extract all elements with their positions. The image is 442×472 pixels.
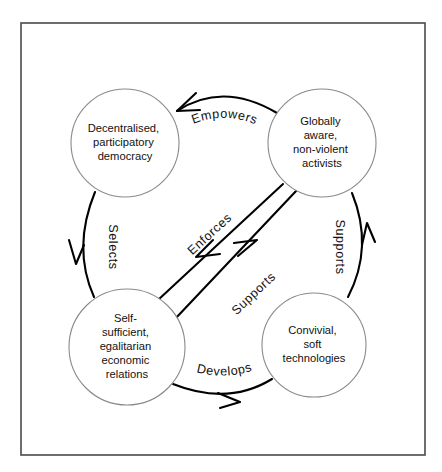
node-decentralised-democracy-label: Decentralised, participatory democracy	[88, 122, 163, 162]
diagram-canvas: Empowers Selects Supports Develops	[0, 0, 442, 472]
node-convivial-technologies[interactable]: Convivial, soft technologies	[262, 293, 366, 397]
edge-label-supports-right: Supports	[333, 219, 347, 274]
edge-label-selects: Selects	[106, 224, 120, 270]
cycle-diagram: Empowers Selects Supports Develops	[0, 0, 442, 472]
node-self-sufficient-economy[interactable]: Self- sufficient, egalitarian economic r…	[69, 289, 185, 405]
node-decentralised-democracy[interactable]: Decentralised, participatory democracy	[71, 89, 179, 197]
node-globally-aware-activists[interactable]: Globally aware, non-violent activists	[268, 89, 376, 197]
